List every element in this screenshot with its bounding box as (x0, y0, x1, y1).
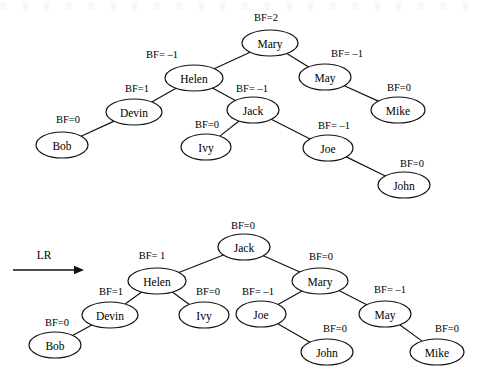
balance-factor-label: BF=0 (196, 286, 220, 297)
tree-node-ivy: IvyBF=0 (179, 286, 229, 329)
rotation-operation-label: LR (37, 249, 52, 261)
tree-edge (220, 121, 239, 136)
node-label: Mary (308, 276, 333, 289)
node-label: Bob (45, 340, 64, 352)
tree-edge (179, 255, 224, 272)
tree-node-joe: JoeBF= –1 (236, 286, 286, 328)
node-label: May (314, 72, 335, 85)
tree-node-mary: MaryBF=2 (242, 12, 298, 57)
node-label: John (316, 347, 338, 359)
balance-factor-label: BF=0 (309, 251, 333, 262)
balance-factor-label: BF= –1 (146, 49, 178, 60)
tree-edge (73, 325, 92, 336)
node-label: Helen (143, 276, 171, 288)
node-label: Joe (253, 309, 268, 321)
balance-factor-label: BF=2 (254, 12, 278, 23)
tree-edge (339, 291, 367, 305)
tree-edge (263, 256, 299, 272)
tree-edge (400, 325, 422, 341)
tree-edge (212, 88, 235, 100)
figure-canvas: MaryBF=2HelenBF= –1MayBF= –1DevinBF=1Jac… (0, 0, 481, 381)
tree-edge (346, 157, 385, 176)
tree-edge (287, 53, 309, 66)
tree-edge (152, 88, 176, 102)
tree-node-ivy: IvyBF=0 (181, 119, 231, 161)
node-label: Ivy (196, 310, 212, 323)
tree-node-jack: JackBF= –1 (227, 83, 279, 124)
node-label: Jack (234, 242, 255, 254)
node-label: Devin (96, 310, 124, 322)
tree-edge (214, 52, 250, 69)
tree-node-helen: HelenBF= 1 (128, 250, 186, 295)
balance-factor-label: BF=1 (125, 83, 149, 94)
node-label: Bob (52, 140, 71, 152)
balance-factor-label: BF= –1 (318, 120, 350, 131)
balance-factor-label: BF=0 (45, 317, 69, 328)
node-label: Jack (243, 105, 264, 117)
tree-node-john: JohnBF=0 (301, 323, 353, 366)
tree-node-helen: HelenBF= –1 (146, 49, 223, 92)
balance-factor-label: BF=0 (435, 323, 459, 334)
node-label: Mike (386, 105, 410, 117)
tree-edge (81, 121, 114, 136)
balance-factor-label: BF=0 (231, 220, 255, 231)
tree-node-devin: DevinBF=1 (82, 286, 138, 329)
tree-node-may: MayBF= –1 (359, 284, 411, 328)
rotation-transition-arrow: LR (13, 249, 84, 274)
tree-node-may: MayBF= –1 (299, 48, 363, 91)
tree-edge (172, 292, 189, 304)
avl-tree-before-rotation: MaryBF=2HelenBF= –1MayBF= –1DevinBF=1Jac… (36, 12, 430, 199)
tree-node-jack: JackBF=0 (218, 220, 270, 261)
tree-edge (344, 86, 378, 101)
balance-factor-label: BF= –1 (236, 83, 268, 94)
node-label: Joe (320, 143, 335, 155)
node-label: Ivy (198, 142, 214, 155)
balance-factor-label: BF=0 (56, 114, 80, 125)
tree-edge (125, 292, 142, 304)
tree-edge (271, 119, 310, 139)
balance-factor-label: BF= –1 (374, 284, 406, 295)
node-label: May (374, 309, 395, 322)
tree-node-joe: JoeBF= –1 (303, 120, 353, 162)
tree-node-bob: BobBF=0 (29, 317, 81, 359)
tree-edge (278, 291, 302, 304)
node-label: Mike (425, 347, 449, 359)
balance-factor-label: BF= 1 (139, 250, 166, 261)
tree-node-mike: MikeBF=0 (410, 323, 464, 366)
tree-node-mary: MaryBF=0 (292, 251, 348, 295)
tree-edge (278, 324, 310, 343)
node-label: Helen (180, 73, 208, 85)
node-label: Devin (120, 107, 148, 119)
avl-tree-after-lr-rotation: JackBF=0HelenBF= 1MaryBF=0DevinBF=1IvyBF… (29, 220, 464, 366)
tree-node-mike: MikeBF=0 (371, 82, 425, 124)
edge-group (73, 255, 423, 342)
tree-node-devin: DevinBF=1 (106, 83, 162, 126)
arrow-head-icon (74, 266, 84, 274)
scan-artifact-strip (0, 2, 481, 10)
balance-factor-label: BF=1 (99, 286, 123, 297)
node-label: Mary (258, 38, 283, 51)
node-label: John (393, 180, 415, 192)
balance-factor-label: BF= –1 (242, 286, 274, 297)
balance-factor-label: BF=0 (387, 82, 411, 93)
tree-node-bob: BobBF=0 (36, 114, 88, 159)
balance-factor-label: BF= –1 (331, 48, 363, 59)
balance-factor-label: BF=0 (400, 158, 424, 169)
avl-rotation-figure: MaryBF=2HelenBF= –1MayBF= –1DevinBF=1Jac… (0, 0, 481, 381)
tree-node-john: JohnBF=0 (378, 158, 430, 199)
balance-factor-label: BF=0 (195, 119, 219, 130)
balance-factor-label: BF=0 (323, 323, 347, 334)
